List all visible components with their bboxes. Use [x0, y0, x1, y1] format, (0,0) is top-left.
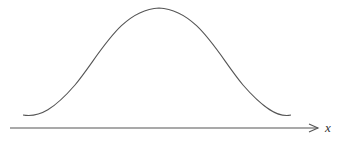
bell-curve	[23, 8, 291, 116]
bell-curve-diagram: x	[0, 0, 344, 143]
x-axis-label: x	[324, 120, 331, 135]
